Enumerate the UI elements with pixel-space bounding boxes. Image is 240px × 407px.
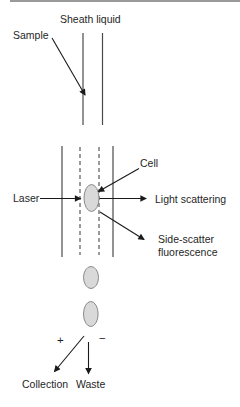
cell-ellipse [84, 185, 99, 212]
waste-label: Waste [76, 378, 105, 391]
minus-charge-label: − [99, 332, 106, 345]
side-scatter-line2: fluorescence [158, 246, 218, 258]
droplet-lower [84, 302, 99, 327]
laser-label: Laser [13, 192, 39, 205]
sheath-liquid-label: Sheath liquid [60, 13, 121, 26]
droplet-upper [84, 267, 99, 289]
side-scatter-line1: Side-scatter [158, 233, 214, 245]
cell-label-arrow [99, 169, 140, 192]
flow-cytometry-diagram: Sheath liquid Sample Laser Cell Light sc… [0, 0, 240, 407]
plus-charge-label: + [57, 334, 64, 347]
side-scatter-fluorescence-label: Side-scatter fluorescence [158, 233, 228, 258]
collection-label: Collection [22, 378, 68, 391]
cell-label: Cell [140, 157, 158, 170]
side-scatter-arrow [100, 212, 144, 240]
light-scattering-label: Light scattering [155, 193, 226, 206]
sample-arrow [52, 38, 85, 95]
sample-label: Sample [13, 29, 49, 42]
